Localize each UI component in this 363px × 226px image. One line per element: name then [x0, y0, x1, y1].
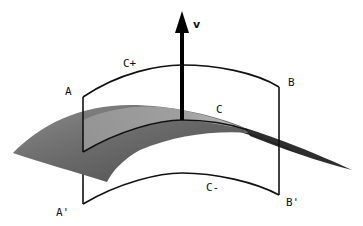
label-a-prime: A': [56, 207, 69, 218]
label-b-prime: B': [286, 197, 299, 208]
label-a: A: [65, 86, 72, 97]
arrowhead-icon: [175, 11, 189, 33]
diagram-canvas: [0, 0, 363, 226]
curve-c-minus: [83, 173, 279, 204]
label-c-plus: C+: [123, 58, 136, 69]
surface-tail: [245, 128, 352, 170]
label-b: B: [288, 77, 295, 88]
label-c-minus: C-: [206, 182, 219, 193]
label-c: C: [216, 104, 223, 115]
surface-diagram: v C+ A B C C- A' B': [0, 0, 363, 226]
label-normal-v: v: [193, 19, 200, 30]
